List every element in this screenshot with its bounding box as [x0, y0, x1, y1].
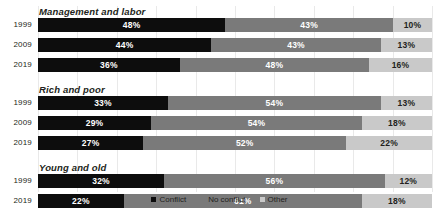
bar-segment-no-conflict: 43% [211, 38, 380, 52]
bar-segment-conflict: 32% [38, 174, 164, 188]
bar-segment-no-conflict: 52% [143, 136, 346, 150]
bar-segment-other: 22% [346, 136, 432, 150]
group-rows: 199933%54%13%200929%54%18%201927%52%22% [0, 96, 439, 156]
legend-swatch-icon [260, 197, 265, 202]
legend-item[interactable]: No conflict [200, 195, 245, 204]
year-label: 1999 [0, 174, 32, 188]
bar-segment-no-conflict: 43% [225, 18, 393, 32]
bar-segment-other: 12% [385, 174, 432, 188]
year-label: 1999 [0, 96, 32, 110]
group-title: Management and labor [39, 6, 145, 17]
bar-segment-other: 10% [393, 18, 432, 32]
chart-row: 199948%43%10% [0, 18, 439, 32]
chart-legend: ConflictNo conflictOther [0, 195, 439, 204]
bar-segment-conflict: 48% [38, 18, 225, 32]
legend-item[interactable]: Conflict [151, 195, 186, 204]
stacked-bar: 44%43%13% [38, 38, 432, 52]
year-label: 2009 [0, 38, 32, 52]
year-label: 1999 [0, 18, 32, 32]
chart-row: 201927%52%22% [0, 136, 439, 150]
bar-segment-conflict: 36% [38, 58, 180, 72]
legend-label: Other [268, 195, 288, 204]
stacked-bar: 29%54%18% [38, 116, 432, 130]
bar-segment-conflict: 44% [38, 38, 211, 52]
stacked-bar: 36%48%16% [38, 58, 432, 72]
bar-segment-conflict: 27% [38, 136, 143, 150]
legend-label: No conflict [208, 195, 245, 204]
bar-segment-other: 13% [381, 38, 432, 52]
year-label: 2009 [0, 116, 32, 130]
bar-segment-no-conflict: 48% [180, 58, 369, 72]
bar-segment-no-conflict: 56% [164, 174, 385, 188]
bar-segment-other: 13% [381, 96, 432, 110]
legend-swatch-icon [151, 197, 156, 202]
group-title: Rich and poor [39, 84, 105, 95]
group-rows: 199948%43%10%200944%43%13%201936%48%16% [0, 18, 439, 78]
chart-row: 200944%43%13% [0, 38, 439, 52]
stacked-bar: 48%43%10% [38, 18, 432, 32]
year-label: 2019 [0, 58, 32, 72]
stacked-bar-chart: Management and labor199948%43%10%200944%… [0, 0, 439, 213]
stacked-bar: 32%56%12% [38, 174, 432, 188]
bar-segment-no-conflict: 54% [168, 96, 381, 110]
chart-row: 199933%54%13% [0, 96, 439, 110]
stacked-bar: 27%52%22% [38, 136, 432, 150]
chart-row: 200929%54%18% [0, 116, 439, 130]
bar-segment-other: 16% [369, 58, 432, 72]
group-rows: 199932%56%12%201922%61%18% [0, 174, 439, 213]
group-title: Young and old [39, 162, 107, 173]
bar-segment-conflict: 33% [38, 96, 168, 110]
legend-label: Conflict [159, 195, 186, 204]
chart-row: 199932%56%12% [0, 174, 439, 188]
bar-segment-no-conflict: 54% [151, 116, 362, 130]
legend-item[interactable]: Other [260, 195, 288, 204]
year-label: 2019 [0, 136, 32, 150]
stacked-bar: 33%54%13% [38, 96, 432, 110]
bar-segment-other: 18% [362, 116, 432, 130]
bar-segment-conflict: 29% [38, 116, 151, 130]
chart-row: 201936%48%16% [0, 58, 439, 72]
legend-swatch-icon [200, 197, 205, 202]
